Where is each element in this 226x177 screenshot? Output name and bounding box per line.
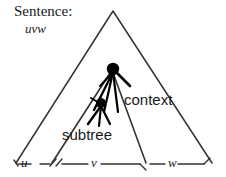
baseline-label-v: v bbox=[91, 156, 97, 169]
sentence-title-label: Sentence: bbox=[14, 4, 72, 19]
subtree-region-label: subtree bbox=[62, 127, 112, 142]
context-region-label: context bbox=[124, 92, 172, 107]
baseline-label-u: u bbox=[21, 156, 28, 169]
baseline-label-w: w bbox=[168, 156, 177, 169]
sentence-tree-figure: Sentence: uvw context subtree u v w bbox=[0, 0, 226, 177]
baseline-rule-icon bbox=[14, 158, 210, 170]
sentence-string-label: uvw bbox=[25, 22, 46, 35]
